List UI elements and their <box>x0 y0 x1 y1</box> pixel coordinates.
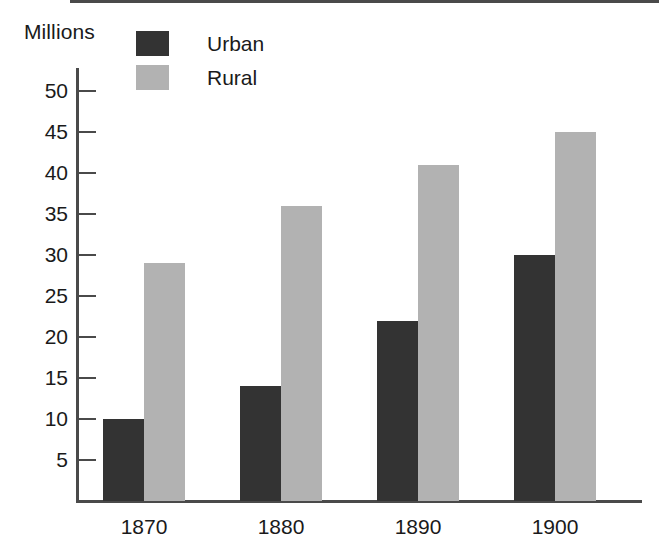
y-axis-line <box>76 68 79 503</box>
y-tick-label-5: 5 <box>8 449 68 470</box>
y-tick-label-15: 15 <box>8 367 68 388</box>
y-tick-label-40: 40 <box>8 162 68 183</box>
y-tick-25 <box>79 295 96 297</box>
y-tick-20 <box>79 336 96 338</box>
bar-rural-1870 <box>144 263 185 501</box>
x-tick-label-1880: 1880 <box>221 516 341 537</box>
y-tick-label-30: 30 <box>8 244 68 265</box>
bar-urban-1890 <box>377 321 418 501</box>
y-tick-50 <box>79 90 96 92</box>
bar-rural-1890 <box>418 165 459 501</box>
y-tick-35 <box>79 213 96 215</box>
y-tick-label-45: 45 <box>8 121 68 142</box>
y-tick-label-25: 25 <box>8 285 68 306</box>
y-tick-label-20: 20 <box>8 326 68 347</box>
chart-page: Millions Urban Rural 5101520253035404550… <box>0 0 659 556</box>
bar-urban-1880 <box>240 386 281 501</box>
bar-urban-1870 <box>103 419 144 501</box>
y-tick-30 <box>79 254 96 256</box>
y-tick-5 <box>79 459 96 461</box>
y-tick-label-10: 10 <box>8 408 68 429</box>
y-tick-label-50: 50 <box>8 80 68 101</box>
bar-rural-1880 <box>281 206 322 501</box>
y-tick-45 <box>79 131 96 133</box>
bar-urban-1900 <box>514 255 555 501</box>
y-tick-15 <box>79 377 96 379</box>
y-tick-10 <box>79 418 96 420</box>
y-tick-label-35: 35 <box>8 203 68 224</box>
bar-rural-1900 <box>555 132 596 501</box>
y-tick-40 <box>79 172 96 174</box>
x-tick-label-1900: 1900 <box>495 516 615 537</box>
x-tick-label-1870: 1870 <box>84 516 204 537</box>
plot-area: 5101520253035404550 1870188018901900 <box>0 0 659 556</box>
x-tick-label-1890: 1890 <box>358 516 478 537</box>
